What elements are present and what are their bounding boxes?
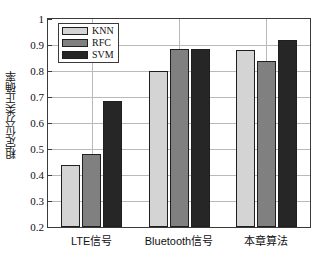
y-tick-mark — [48, 97, 52, 98]
y-tick-label: 0.3 — [30, 196, 44, 207]
legend-swatch-knn — [62, 27, 88, 35]
y-tick-label: 0.5 — [30, 144, 44, 155]
y-tick-mark — [48, 149, 52, 150]
y-tick-label: 0.4 — [30, 170, 44, 181]
y-tick-mark — [48, 227, 52, 228]
y-tick-mark — [48, 19, 52, 20]
legend-label: SVM — [92, 50, 114, 60]
y-tick-mark — [48, 123, 52, 124]
y-tick-label: 0.8 — [30, 66, 44, 77]
x-tick-label: 本章算法 — [244, 232, 288, 248]
y-tick-mark — [48, 201, 52, 202]
y-tick-mark — [48, 175, 52, 176]
plot-area: LTE信号Bluetooth信号本章算法 0.20.30.40.50.60.70… — [47, 18, 311, 228]
y-tick-label: 0.6 — [30, 118, 44, 129]
bar-rfc-2 — [170, 49, 189, 227]
bar-rfc-3 — [257, 61, 276, 227]
bar-svm-2 — [191, 49, 210, 227]
y-tick-mark — [48, 45, 52, 46]
bar-svm-1 — [103, 101, 122, 227]
y-axis-title-text: 粗定位分类正确率 — [3, 71, 19, 159]
y-axis-title: 粗定位分类正确率 — [0, 0, 22, 230]
legend-item-svm[interactable]: SVM — [62, 50, 114, 60]
x-tick-label: Bluetooth信号 — [145, 232, 213, 248]
bar-knn-2 — [149, 71, 168, 227]
chart-legend: KNNRFCSVM — [58, 23, 119, 63]
y-tick-label: 0.9 — [30, 40, 44, 51]
y-tick-label: 0.7 — [30, 92, 44, 103]
x-tick-label: LTE信号 — [71, 232, 112, 248]
legend-label: KNN — [92, 26, 114, 36]
legend-item-rfc[interactable]: RFC — [62, 38, 114, 48]
bar-knn-1 — [61, 165, 80, 227]
legend-label: RFC — [92, 38, 111, 48]
y-tick-label: 0.2 — [30, 222, 44, 233]
y-tick-label: 1 — [39, 14, 45, 25]
y-tick-mark — [48, 71, 52, 72]
bar-knn-3 — [236, 50, 255, 227]
chart-figure: 粗定位分类正确率 LTE信号Bluetooth信号本章算法 0.20.30.40… — [0, 0, 336, 262]
legend-swatch-svm — [62, 51, 88, 59]
bar-svm-3 — [278, 40, 297, 227]
legend-swatch-rfc — [62, 39, 88, 47]
legend-item-knn[interactable]: KNN — [62, 26, 114, 36]
bar-rfc-1 — [82, 154, 101, 227]
